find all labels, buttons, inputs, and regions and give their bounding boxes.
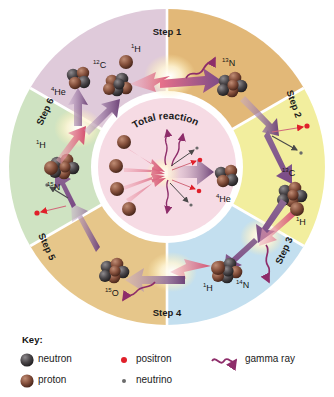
- key-item-neutron: neutron: [38, 354, 72, 364]
- proton-step3: [290, 202, 304, 216]
- proton-step1: [119, 55, 133, 69]
- key-label-proton: proton: [38, 375, 66, 385]
- cycle-svg: Step 1 1H 12C 13N Step 2 13C: [0, 0, 334, 397]
- key-label-neutron: neutron: [38, 354, 72, 364]
- nucleus-he4: [67, 67, 90, 89]
- center-nucleus-he4: [215, 165, 238, 187]
- gamma-ray-icon-key: [212, 359, 236, 363]
- neutrino-icon: [122, 379, 126, 383]
- proton-step6: [44, 161, 58, 175]
- proton-step4: [211, 261, 225, 275]
- key-label-positron: positron: [136, 354, 172, 364]
- center-proton-3: [110, 182, 124, 196]
- key-item-proton: proton: [38, 375, 66, 385]
- positron-icon-step5: [34, 210, 39, 215]
- center-positron-2: [197, 189, 202, 194]
- key-item-gamma-ray: gamma ray: [245, 354, 295, 364]
- center-proton-2: [109, 159, 123, 173]
- neutrino-icon-step2: [299, 151, 302, 154]
- key-heading: Key:: [22, 334, 43, 345]
- center-proton-1: [117, 135, 131, 149]
- center-proton-4: [122, 202, 136, 216]
- step-4-label: Step 4: [153, 307, 182, 318]
- cno-cycle-figure: Step 1 1H 12C 13N Step 2 13C: [0, 0, 334, 397]
- center-neutrino-2: [189, 203, 192, 206]
- key-item-neutrino: neutrino: [136, 375, 172, 385]
- key-label-neutrino: neutrino: [136, 375, 172, 385]
- center-positron-1: [198, 158, 203, 163]
- key-label-gamma-ray: gamma ray: [245, 354, 295, 364]
- positron-icon-step2: [304, 123, 309, 128]
- neutron-icon: [20, 353, 33, 366]
- key-item-positron: positron: [136, 354, 172, 364]
- proton-icon: [20, 374, 33, 387]
- center-neutrino-1: [195, 146, 198, 149]
- step-1-label: Step 1: [153, 26, 182, 37]
- positron-icon: [121, 357, 127, 363]
